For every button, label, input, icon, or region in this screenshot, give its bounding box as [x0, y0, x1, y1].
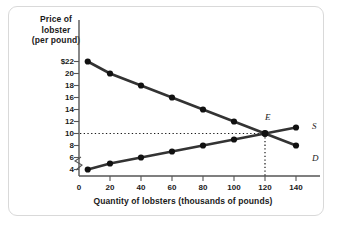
chart-plot-area [0, 0, 337, 227]
equilibrium-point [262, 130, 269, 137]
y-tick-marks [74, 62, 79, 170]
axis-break-icon [75, 157, 82, 170]
x-tick-marks [110, 176, 296, 181]
